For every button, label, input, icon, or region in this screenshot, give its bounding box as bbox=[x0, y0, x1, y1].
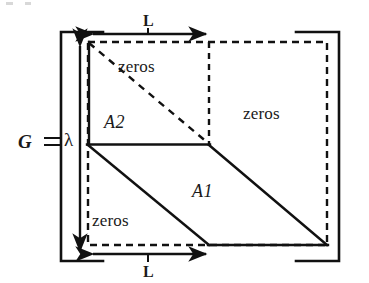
lambda-scale-label: λ bbox=[64, 130, 73, 149]
zeros-label-top: zeros bbox=[118, 58, 155, 75]
equals-sign-strokes bbox=[44, 138, 62, 145]
top-width-label: L bbox=[143, 13, 154, 29]
matrix-bracket-right bbox=[296, 32, 339, 261]
block-label-a1: A1 bbox=[192, 182, 213, 200]
zeros-label-right: zeros bbox=[243, 105, 280, 122]
solid-diagonal-a1-left bbox=[88, 145, 209, 245]
figure-container: G λ L L zeros zeros zeros A2 A1 bbox=[0, 0, 369, 283]
solid-diagonal-a1-right bbox=[209, 145, 327, 245]
scan-artifact bbox=[25, 2, 31, 5]
bottom-width-label: L bbox=[143, 264, 154, 280]
matrix-structure-diagram bbox=[0, 0, 369, 283]
matrix-name-label: G bbox=[18, 132, 32, 151]
zeros-label-bottom-left: zeros bbox=[92, 212, 129, 229]
block-label-a2: A2 bbox=[104, 113, 125, 131]
scan-artifact bbox=[6, 2, 13, 5]
